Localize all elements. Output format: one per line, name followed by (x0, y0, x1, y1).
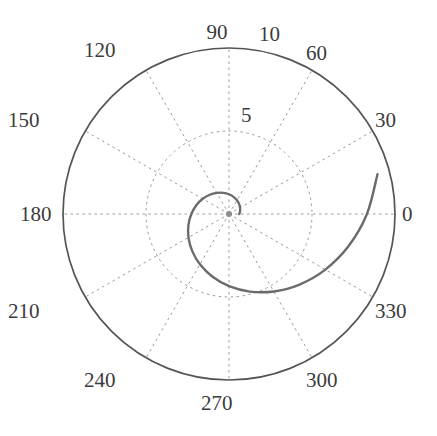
theta-label-210: 210 (8, 301, 40, 322)
spiral-data-curve (188, 174, 377, 292)
theta-label-150: 150 (8, 110, 40, 131)
theta-label-240: 240 (84, 370, 116, 391)
theta-label-330: 330 (375, 301, 407, 322)
r-label-10: 10 (259, 24, 280, 45)
theta-label-90: 90 (207, 22, 228, 43)
polar-plot-canvas (0, 0, 437, 436)
theta-label-300: 300 (306, 370, 338, 391)
polar-plot-figure: 0 30 60 90 120 150 180 210 240 270 300 3… (0, 0, 437, 436)
spoke-300 (229, 214, 312, 358)
theta-label-180: 180 (20, 204, 52, 225)
spoke-30 (229, 131, 373, 214)
theta-label-270: 270 (201, 393, 233, 414)
theta-label-120: 120 (84, 40, 116, 61)
theta-label-0: 0 (402, 204, 413, 225)
theta-label-30: 30 (375, 110, 396, 131)
origin-marker (226, 211, 232, 217)
spoke-150 (85, 131, 229, 214)
theta-label-60: 60 (306, 43, 327, 64)
r-label-5: 5 (241, 105, 252, 126)
